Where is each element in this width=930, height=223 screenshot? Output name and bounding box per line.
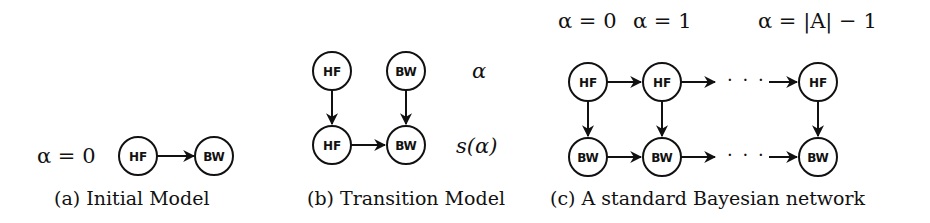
panel-b-transition-model: HF BW HF BW α s(α) (b) Transition Model	[307, 52, 505, 209]
panel-c-standard-bayesian-network: α = 0 α = 1 α = |A| − 1 · · · · · · HF H…	[550, 9, 877, 209]
svg-text:HF: HF	[323, 65, 341, 79]
node-bw-1: BW	[643, 138, 681, 176]
panel-b-s-alpha-label: s(α)	[456, 134, 497, 158]
top-ellipsis: · · ·	[727, 69, 766, 90]
node-bw-0: BW	[569, 138, 607, 176]
node-hf-0: HF	[569, 63, 607, 101]
bottom-ellipsis: · · ·	[727, 144, 766, 165]
node-bw-alpha: BW	[387, 52, 425, 90]
svg-text:BW: BW	[203, 150, 225, 164]
svg-text:BW: BW	[395, 65, 417, 79]
node-hf-last: HF	[799, 63, 837, 101]
panel-b-alpha-label: α	[472, 59, 486, 83]
svg-text:BW: BW	[395, 139, 417, 153]
node-bw-last: BW	[799, 138, 837, 176]
panel-a-caption: (a) Initial Model	[54, 187, 210, 209]
figure-canvas: α = 0 HF BW (a) Initial Model HF BW HF	[0, 0, 930, 223]
panel-c-caption: (c) A standard Bayesian network	[550, 187, 866, 209]
svg-text:BW: BW	[807, 151, 829, 165]
panel-c-label-alpha-last: α = |A| − 1	[758, 9, 877, 34]
svg-text:HF: HF	[653, 76, 671, 90]
svg-text:HF: HF	[323, 139, 341, 153]
panel-c-label-alpha-1: α = 1	[633, 9, 692, 33]
node-hf-s-alpha: HF	[313, 126, 351, 164]
panel-a-alpha-label: α = 0	[37, 144, 96, 168]
svg-text:HF: HF	[129, 150, 147, 164]
node-hf-alpha: HF	[313, 52, 351, 90]
node-hf-1: HF	[643, 63, 681, 101]
node-hf: HF	[119, 137, 157, 175]
node-bw-s-alpha: BW	[387, 126, 425, 164]
panel-a-initial-model: α = 0 HF BW (a) Initial Model	[37, 137, 233, 209]
panel-c-label-alpha-0: α = 0	[558, 9, 617, 33]
svg-text:BW: BW	[577, 151, 599, 165]
node-bw: BW	[195, 137, 233, 175]
svg-text:HF: HF	[579, 76, 597, 90]
svg-text:BW: BW	[651, 151, 673, 165]
svg-text:HF: HF	[809, 76, 827, 90]
panel-b-caption: (b) Transition Model	[307, 187, 505, 209]
